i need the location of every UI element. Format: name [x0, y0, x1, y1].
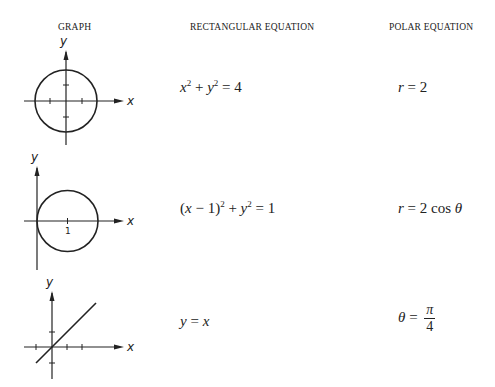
y-axis-label: y	[59, 34, 68, 48]
fraction-pi-over-4: π 4	[424, 303, 435, 334]
x-axis-label: x	[126, 340, 135, 354]
y-axis-label: y	[30, 150, 39, 164]
polar-eq-shifted-circle: r = 2 cos θ	[398, 200, 462, 217]
graph-circle-origin: y x	[0, 30, 140, 145]
x-axis-label: x	[126, 94, 135, 108]
header-rectangular-equation: RECTANGULAR EQUATION	[190, 22, 314, 32]
polar-eq-line: θ = π 4	[398, 303, 435, 334]
graph-line: y x	[0, 275, 140, 387]
tick-label-one: 1	[65, 226, 71, 236]
y-axis-label: y	[45, 275, 54, 289]
rect-eq-circle: x2 + y2 = 4	[180, 79, 242, 96]
polar-eq-circle: r = 2	[398, 79, 427, 96]
header-polar-equation: POLAR EQUATION	[389, 22, 473, 32]
x-axis-label: x	[126, 214, 135, 228]
graph-circle-shifted: y x 1	[0, 150, 140, 270]
rect-eq-line: y = x	[180, 313, 209, 330]
rect-eq-shifted-circle: (x − 1)2 + y2 = 1	[180, 200, 275, 217]
